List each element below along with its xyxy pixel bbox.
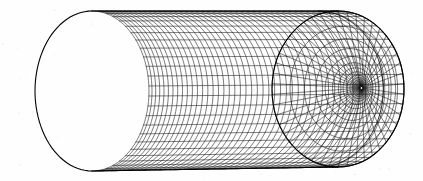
wireframe-cylinder-drawing	[0, 0, 423, 181]
figure-root: Wireframe mesh cylinder	[0, 0, 423, 181]
